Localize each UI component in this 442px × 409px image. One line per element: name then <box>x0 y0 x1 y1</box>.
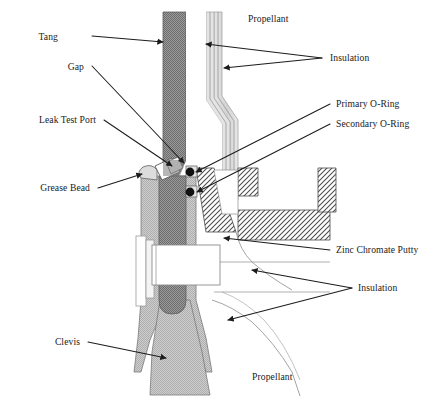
insulation-hatch-lower-right <box>238 210 330 240</box>
label-propellant-bottom: Propellant <box>252 371 293 382</box>
tang-leader <box>92 36 163 42</box>
label-insulation-top: Insulation <box>330 52 369 63</box>
label-tang: Tang <box>39 31 59 42</box>
grease-bead-leader <box>98 174 142 188</box>
insulation-bottom-leader-a <box>252 270 352 288</box>
clevis-lower-leg <box>150 300 210 395</box>
label-zinc-chromate-putty: Zinc Chromate Putty <box>336 244 418 255</box>
insulation-hatch-right-column <box>318 168 336 212</box>
tang-body <box>163 12 186 176</box>
label-grease-bead: Grease Bead <box>40 182 90 193</box>
insulation-top-leader-b <box>224 58 322 68</box>
joint-diagram-figure: Tang Gap Leak Test Port Grease Bead Clev… <box>0 0 442 409</box>
label-primary-oring: Primary O-Ring <box>336 98 400 109</box>
leak-test-port-leader <box>104 120 172 166</box>
label-clevis: Clevis <box>55 336 80 347</box>
insulation-top-leader-a <box>206 44 322 58</box>
label-propellant-top: Propellant <box>248 13 289 24</box>
primary-oring <box>186 168 195 177</box>
joint-geometry <box>134 12 336 396</box>
label-secondary-oring: Secondary O-Ring <box>336 118 409 129</box>
insulation-bottom-leader-b <box>228 288 352 320</box>
label-insulation-bottom: Insulation <box>358 282 397 293</box>
insulation-hatch-upper-right <box>238 168 258 196</box>
grease-bead <box>139 166 157 180</box>
label-leak-test-port: Leak Test Port <box>39 114 96 125</box>
clevis-pin-box <box>152 245 220 285</box>
secondary-oring <box>186 188 195 197</box>
diagram-canvas: Tang Gap Leak Test Port Grease Bead Clev… <box>0 0 442 409</box>
clevis-pin-outer <box>136 236 146 306</box>
label-gap: Gap <box>68 61 84 72</box>
